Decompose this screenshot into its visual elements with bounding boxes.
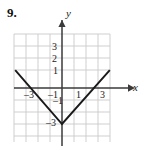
y-tick-label-3: 3 xyxy=(52,42,57,52)
y-axis-arrow xyxy=(58,20,65,27)
y-tick-label-2: 2 xyxy=(52,54,57,64)
y-tick-label-neg3: –3 xyxy=(46,118,56,128)
x-axis-label: x xyxy=(133,82,138,93)
x-tick-label-neg3: –3 xyxy=(24,90,34,100)
y-axis-label: y xyxy=(66,8,71,19)
x-tick-label-3: 3 xyxy=(100,90,105,100)
axes xyxy=(14,20,128,146)
y-tick-label-neg1: –1 xyxy=(53,96,63,106)
x-tick-label-1: 1 xyxy=(76,90,81,100)
coordinate-plane-svg xyxy=(0,0,146,146)
y-tick-label-1: 1 xyxy=(53,66,58,76)
